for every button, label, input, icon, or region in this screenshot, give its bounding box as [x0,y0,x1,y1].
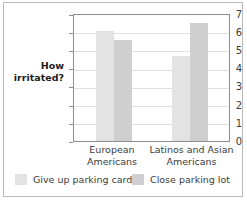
bar-european-americans-give-up-parking-card [96,31,114,141]
legend-swatch-light-icon [15,174,27,185]
chart-figure: How irritated? 0 1 2 3 4 5 6 7 European … [3,2,243,197]
chart-legend: Give up parking card Close parking lot [4,174,242,194]
legend-swatch-dark-icon [132,174,144,185]
x-label-group-1-line-2: Americans [73,156,151,168]
x-label-group-2: Latinos and Asian Americans [149,144,234,169]
x-label-group-2-line-2: Americans [149,156,234,168]
x-label-group-2-line-1: Latinos and Asian [149,144,234,156]
bar-european-americans-close-parking-lot [114,40,132,141]
legend-entry-give-up-parking-card: Give up parking card [15,174,132,185]
plot-area [73,14,230,142]
y-axis-title: How irritated? [6,60,64,84]
y-tick-mark-0 [69,142,73,143]
bar-latinos-asian-americans-give-up-parking-card [172,56,190,142]
x-label-group-1-line-1: European [73,144,151,156]
bar-latinos-asian-americans-close-parking-lot [190,23,208,141]
legend-label-close-parking-lot: Close parking lot [150,174,230,185]
x-label-group-1: European Americans [73,144,151,169]
legend-label-give-up-parking-card: Give up parking card [33,174,132,185]
legend-entry-close-parking-lot: Close parking lot [132,174,230,185]
